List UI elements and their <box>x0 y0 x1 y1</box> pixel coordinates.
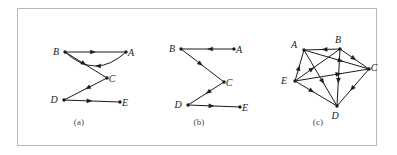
node-C: C <box>105 73 115 84</box>
node-label-B: B <box>335 34 341 45</box>
node-C: C <box>367 62 377 73</box>
figure-container: BACDE (a) BACDE (b) ABCDE (c) <box>0 0 397 155</box>
panel-b: BACDE (b) <box>140 9 258 147</box>
node-A: A <box>232 44 243 55</box>
node-label-D: D <box>49 94 58 105</box>
node-label-C: C <box>226 77 233 88</box>
node-D: D <box>173 99 189 110</box>
node-A: A <box>124 47 135 58</box>
node-E: E <box>238 102 248 113</box>
node-label-D: D <box>173 99 182 110</box>
node-D: D <box>49 94 65 105</box>
node-B: B <box>169 43 183 54</box>
node-label-E: E <box>121 97 128 108</box>
node-label-C: C <box>371 62 378 73</box>
node-A: A <box>290 39 306 52</box>
figure-frame: BACDE (a) BACDE (b) ABCDE (c) <box>17 8 377 146</box>
caption-c: (c) <box>258 117 378 127</box>
node-label-B: B <box>169 43 175 54</box>
node-B: B <box>335 34 342 51</box>
node-label-A: A <box>290 39 298 50</box>
node-E: E <box>280 75 297 86</box>
node-label-A: A <box>235 44 243 55</box>
node-E: E <box>118 97 128 108</box>
node-label-A: A <box>127 47 135 58</box>
caption-b: (b) <box>140 117 258 127</box>
node-label-B: B <box>53 46 59 57</box>
node-label-E: E <box>241 102 248 113</box>
caption-a: (a) <box>18 117 140 127</box>
node-B: B <box>53 46 67 57</box>
node-label-E: E <box>280 75 287 86</box>
panel-a: BACDE (a) <box>18 9 140 147</box>
panel-c: ABCDE (c) <box>258 9 378 147</box>
node-label-C: C <box>109 73 116 84</box>
node-C: C <box>222 77 232 88</box>
